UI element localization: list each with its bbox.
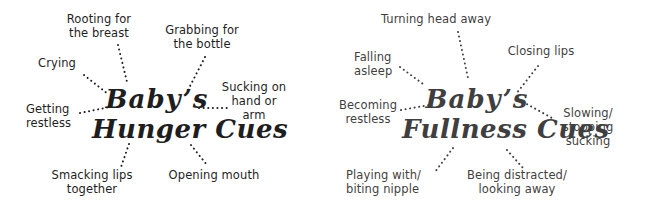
cue-line: restless bbox=[26, 116, 80, 130]
cue-line: Slowing/ bbox=[556, 106, 620, 120]
cue-crying: Crying bbox=[34, 56, 80, 70]
cue-falling-asleep: Falling asleep bbox=[354, 50, 402, 78]
cue-slowing: Slowing/ stopping sucking bbox=[556, 106, 620, 148]
cue-rooting: Rooting for the breast bbox=[60, 12, 138, 40]
cue-line: asleep bbox=[354, 64, 402, 78]
cue-line: stopping bbox=[556, 120, 620, 134]
fullness-title-line2: Fullness Cues bbox=[402, 114, 552, 144]
cue-line: together bbox=[46, 182, 138, 196]
hunger-title-line2: Hunger Cues bbox=[92, 114, 222, 144]
cue-distracted: Being distracted/ looking away bbox=[462, 168, 572, 196]
cue-line: arm bbox=[218, 108, 290, 122]
cue-smacking: Smacking lips together bbox=[46, 168, 138, 196]
cue-becoming-restless: Becoming restless bbox=[334, 98, 402, 126]
cue-line: Falling bbox=[354, 50, 402, 64]
cue-line: sucking bbox=[556, 134, 620, 148]
cue-turning-head: Turning head away bbox=[376, 12, 496, 26]
cue-line: hand or bbox=[218, 94, 290, 108]
cue-line: Crying bbox=[34, 56, 80, 70]
cue-grabbing: Grabbing for the bottle bbox=[160, 23, 244, 51]
cue-line: biting nipple bbox=[346, 182, 432, 196]
cue-closing-lips: Closing lips bbox=[502, 44, 580, 58]
cue-line: the bottle bbox=[160, 37, 244, 51]
cue-line: Opening mouth bbox=[164, 168, 264, 182]
fullness-title: Baby’s Fullness Cues bbox=[402, 84, 552, 144]
fullness-cues-panel: Baby’s Fullness Cues Turning head away F… bbox=[320, 0, 647, 215]
cue-line: Getting bbox=[26, 102, 80, 116]
cue-sucking: Sucking on hand or arm bbox=[218, 80, 290, 122]
cue-line: Being distracted/ bbox=[462, 168, 572, 182]
fullness-title-line1: Baby’s bbox=[402, 84, 552, 114]
cue-line: Smacking lips bbox=[46, 168, 138, 182]
cue-line: the breast bbox=[60, 26, 138, 40]
cue-line: Closing lips bbox=[502, 44, 580, 58]
cue-opening-mouth: Opening mouth bbox=[164, 168, 264, 182]
cue-line: looking away bbox=[462, 182, 572, 196]
hunger-title-line1: Baby’s bbox=[92, 84, 222, 114]
cue-line: Playing with/ bbox=[346, 168, 432, 182]
cue-line: Grabbing for bbox=[160, 23, 244, 37]
hunger-title: Baby’s Hunger Cues bbox=[92, 84, 222, 144]
hunger-cues-panel: Baby’s Hunger Cues Rooting for the breas… bbox=[0, 0, 320, 215]
cue-line: Becoming bbox=[334, 98, 402, 112]
cue-line: Rooting for bbox=[60, 12, 138, 26]
cue-getting-restless: Getting restless bbox=[26, 102, 80, 130]
cue-line: Turning head away bbox=[376, 12, 496, 26]
cue-playing: Playing with/ biting nipple bbox=[346, 168, 432, 196]
cue-line: restless bbox=[334, 112, 402, 126]
cue-line: Sucking on bbox=[218, 80, 290, 94]
